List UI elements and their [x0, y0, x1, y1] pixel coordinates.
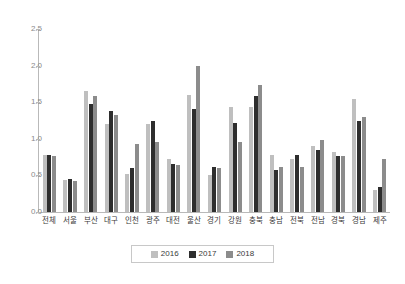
legend-item[interactable]: 2016: [151, 250, 179, 258]
x-tick-label: 경기: [204, 216, 225, 225]
x-tick-label: 충남: [266, 216, 287, 225]
bar-2017[interactable]: [378, 187, 382, 212]
bar-2018[interactable]: [52, 156, 56, 212]
bar-2017[interactable]: [295, 155, 299, 212]
x-tick-label: 제주: [369, 216, 390, 225]
bar-2018[interactable]: [238, 142, 242, 212]
bar-2018[interactable]: [176, 165, 180, 212]
bar-group: [369, 29, 390, 212]
bar-2017[interactable]: [130, 168, 134, 212]
bar-group: [287, 29, 308, 212]
x-axis-line: [38, 212, 390, 213]
x-tick-label: 서울: [60, 216, 81, 225]
x-tick-label: 전체: [39, 216, 60, 225]
legend-swatch-2018-icon: [226, 251, 233, 258]
bar-group: [184, 29, 205, 212]
bar-2018[interactable]: [382, 159, 386, 212]
bar-2017[interactable]: [68, 179, 72, 212]
y-tick-mark: [36, 212, 40, 213]
bar-group: [101, 29, 122, 212]
legend-item[interactable]: 2017: [189, 250, 217, 258]
bar-2016[interactable]: [167, 159, 171, 212]
x-tick-label: 전북: [287, 216, 308, 225]
bar-2018[interactable]: [217, 168, 221, 212]
bar-group: [307, 29, 328, 212]
x-tick-label: 인천: [122, 216, 143, 225]
bar-groups: [39, 29, 390, 212]
bar-2018[interactable]: [196, 66, 200, 212]
bar-2017[interactable]: [192, 109, 196, 212]
x-tick-label: 경남: [349, 216, 370, 225]
bar-chart: 0.00.51.01.52.02.5 전체서울부산대구인천광주대전울산경기강원충…: [0, 0, 405, 284]
bar-2018[interactable]: [320, 140, 324, 212]
bar-2016[interactable]: [290, 159, 294, 212]
x-tick-label: 전남: [307, 216, 328, 225]
bar-2016[interactable]: [229, 107, 233, 212]
bar-2018[interactable]: [258, 85, 262, 212]
bar-2016[interactable]: [270, 155, 274, 212]
bar-2016[interactable]: [63, 180, 67, 212]
bar-2018[interactable]: [341, 156, 345, 212]
bar-2017[interactable]: [171, 164, 175, 212]
bar-2016[interactable]: [311, 146, 315, 212]
bar-2018[interactable]: [73, 181, 77, 212]
bar-group: [80, 29, 101, 212]
bar-2017[interactable]: [212, 167, 216, 212]
bar-group: [39, 29, 60, 212]
legend-swatch-2017-icon: [189, 251, 196, 258]
bar-2018[interactable]: [135, 144, 139, 212]
bar-2017[interactable]: [316, 150, 320, 212]
legend-swatch-2016-icon: [151, 251, 158, 258]
legend-label: 2018: [236, 250, 254, 258]
bar-group: [163, 29, 184, 212]
bar-2018[interactable]: [279, 167, 283, 212]
chart-legend[interactable]: 2016 2017 2018: [131, 245, 274, 263]
legend-label: 2016: [161, 250, 179, 258]
bar-2017[interactable]: [233, 123, 237, 212]
bar-2016[interactable]: [373, 190, 377, 212]
x-tick-label: 충북: [245, 216, 266, 225]
bar-2017[interactable]: [151, 121, 155, 212]
bar-group: [225, 29, 246, 212]
bar-group: [245, 29, 266, 212]
bar-2016[interactable]: [249, 107, 253, 212]
bar-2016[interactable]: [208, 175, 212, 212]
bar-2016[interactable]: [105, 124, 109, 212]
bar-2016[interactable]: [352, 99, 356, 212]
plot-area: 0.00.51.01.52.02.5 전체서울부산대구인천광주대전울산경기강원충…: [0, 0, 405, 230]
bar-2018[interactable]: [362, 117, 366, 212]
bar-2016[interactable]: [146, 124, 150, 212]
bar-2018[interactable]: [155, 142, 159, 212]
x-tick-label: 대전: [163, 216, 184, 225]
bar-group: [60, 29, 81, 212]
bar-2018[interactable]: [93, 96, 97, 212]
x-tick-label: 강원: [225, 216, 246, 225]
legend-item[interactable]: 2018: [226, 250, 254, 258]
bar-2018[interactable]: [114, 115, 118, 212]
bar-2017[interactable]: [109, 111, 113, 212]
legend-label: 2017: [199, 250, 217, 258]
bar-group: [122, 29, 143, 212]
bar-group: [142, 29, 163, 212]
bar-2017[interactable]: [47, 155, 51, 212]
bar-group: [349, 29, 370, 212]
x-tick-label: 대구: [101, 216, 122, 225]
bar-group: [266, 29, 287, 212]
bar-2016[interactable]: [187, 95, 191, 212]
bar-2018[interactable]: [300, 167, 304, 212]
bar-group: [328, 29, 349, 212]
bar-2016[interactable]: [84, 91, 88, 212]
bar-2016[interactable]: [43, 155, 47, 212]
x-tick-label: 경북: [328, 216, 349, 225]
bar-2016[interactable]: [125, 174, 129, 212]
bar-2016[interactable]: [332, 152, 336, 212]
bar-2017[interactable]: [336, 156, 340, 212]
x-tick-label: 광주: [142, 216, 163, 225]
x-tick-label: 울산: [184, 216, 205, 225]
x-tick-label: 부산: [80, 216, 101, 225]
bar-2017[interactable]: [357, 121, 361, 212]
bar-2017[interactable]: [89, 104, 93, 212]
bar-2017[interactable]: [274, 170, 278, 212]
bar-group: [204, 29, 225, 212]
bar-2017[interactable]: [254, 96, 258, 212]
